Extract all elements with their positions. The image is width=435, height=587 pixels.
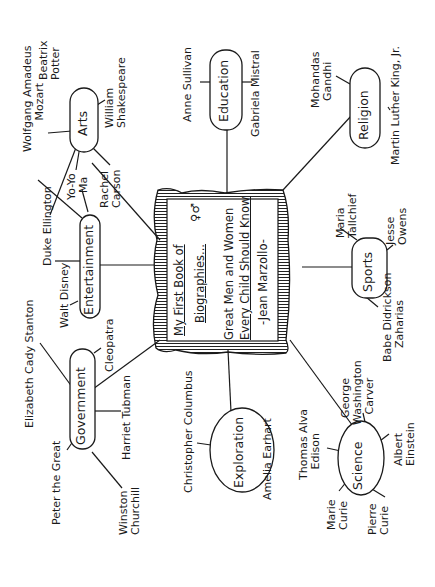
person-thomas-edison: Thomas Alva Edison bbox=[298, 409, 322, 480]
node-label-arts: Arts bbox=[77, 111, 89, 136]
person-albert-einstein: Albert Einstein bbox=[393, 422, 417, 466]
person-harriet-tubman: Harriet Tubman bbox=[121, 375, 133, 460]
book-author: -Jean Marzollo- bbox=[256, 239, 271, 325]
person-gabriela-mistral: Gabriela Mistral bbox=[250, 50, 262, 137]
person-mohandas-gandhi: Mohandas Gandhi bbox=[310, 52, 334, 108]
person-shakespeare: William Shakespeare bbox=[104, 57, 128, 128]
book-title-line1: My First Book of bbox=[172, 244, 187, 336]
node-label-entertainment: Entertainment bbox=[83, 225, 95, 315]
mind-map: My First Book of Biographies... Great Me… bbox=[0, 0, 435, 587]
person-anne-sullivan: Anne Sullivan bbox=[182, 47, 194, 122]
gender-symbols-icon: ♀♂ bbox=[188, 203, 203, 222]
person-yo-yo-ma: Yo-Yo Ma bbox=[66, 173, 90, 200]
person-babe-zaharias: Babe Didrickson Zaharias bbox=[382, 273, 406, 362]
node-label-education: Education bbox=[218, 60, 230, 122]
person-winston-churchill: Winston Churchill bbox=[118, 487, 142, 535]
person-peter-the-great: Peter the Great bbox=[51, 441, 63, 525]
person-pierre-curie: Pierre Curie bbox=[367, 503, 391, 535]
person-marie-curie: Marie Curie bbox=[326, 499, 350, 530]
person-rachel-carson: Rachel Carson bbox=[99, 170, 123, 208]
node-label-sports: Sports bbox=[362, 252, 374, 292]
book-title-line2: Biographies... bbox=[193, 244, 208, 323]
book-subtitle-line1: Great Men and Women bbox=[222, 208, 237, 340]
book-subtitle-line2: Every Child Should Know bbox=[238, 197, 253, 340]
node-label-religion: Religion bbox=[358, 90, 370, 140]
person-cleopatra: Cleopatra bbox=[104, 318, 116, 372]
person-george-washington-carver: George Washington Carver bbox=[340, 360, 376, 425]
person-walt-disney: Walt Disney bbox=[59, 263, 71, 328]
person-maria-tallchief: Maria Tallchief bbox=[335, 194, 359, 238]
person-jesse-owens: Jesse Owens bbox=[385, 208, 409, 245]
person-christopher-columbus: Christopher Columbus bbox=[183, 370, 195, 493]
person-duke-ellington: Duke Ellington bbox=[42, 186, 54, 266]
node-label-government: Government bbox=[75, 367, 87, 445]
person-amelia-earhart: Amelia Earhart bbox=[262, 418, 274, 500]
person-mozart: Wolfgang Amadeus Mozart bbox=[22, 46, 46, 153]
node-label-science: Science bbox=[352, 442, 364, 490]
person-elizabeth-cady-stanton: Elizabeth Cady Stanton bbox=[24, 299, 36, 428]
person-mlk: Martin Luther King, Jr. bbox=[390, 46, 402, 165]
node-label-exploration: Exploration bbox=[233, 417, 245, 488]
